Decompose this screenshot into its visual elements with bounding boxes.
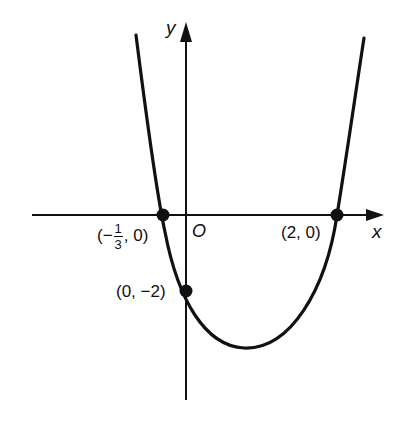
origin-label: O [192, 222, 206, 240]
x-axis-arrow-icon [366, 209, 384, 221]
left-root-prefix: (− [97, 226, 113, 245]
y-axis-label: y [166, 18, 176, 37]
x-axis-label: x [372, 222, 382, 241]
right-root-label: (2, 0) [281, 224, 321, 241]
left-root-label: (−13, 0) [97, 222, 148, 251]
graph-canvas [0, 0, 419, 423]
fraction: 13 [114, 222, 123, 251]
point-left-root [157, 209, 170, 222]
y-axis-arrow-icon [180, 22, 192, 42]
parabola-curve [136, 35, 364, 348]
point-y-intercept [180, 285, 193, 298]
y-intercept-label: (0, −2) [116, 283, 166, 300]
left-root-suffix: , 0) [124, 226, 149, 245]
point-right-root [331, 209, 344, 222]
